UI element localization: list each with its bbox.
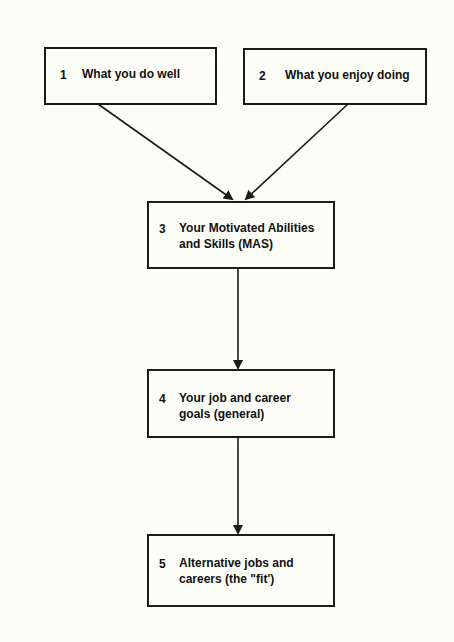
node-job-career-goals: 4 Your job and career goals (general) — [147, 369, 335, 438]
node-number: 2 — [259, 69, 266, 83]
node-what-you-enjoy-doing: 2 What you enjoy doing — [243, 48, 427, 105]
node-what-you-do-well: 1 What you do well — [44, 47, 217, 105]
node-label-line-2: and Skills (MAS) — [179, 236, 273, 252]
node-number: 1 — [60, 68, 67, 82]
node-label: What you enjoy doing — [285, 67, 410, 83]
node-label-line-1: Alternative jobs and — [179, 555, 294, 571]
node-label: What you do well — [82, 66, 180, 82]
arrow-2-to-3 — [246, 104, 348, 199]
node-label-line-1: Your Motivated Abilities — [179, 220, 314, 236]
node-label-line-2: careers (the "fit') — [179, 571, 274, 587]
node-alternative-jobs: 5 Alternative jobs and careers (the "fit… — [147, 534, 335, 607]
node-label-line-1: Your job and career — [179, 390, 291, 406]
arrow-1-to-3 — [98, 104, 232, 199]
node-label-line-2: goals (general) — [179, 406, 264, 422]
node-motivated-abilities: 3 Your Motivated Abilities and Skills (M… — [147, 201, 335, 269]
node-number: 4 — [159, 392, 166, 406]
node-number: 5 — [159, 557, 166, 571]
node-number: 3 — [159, 222, 166, 236]
